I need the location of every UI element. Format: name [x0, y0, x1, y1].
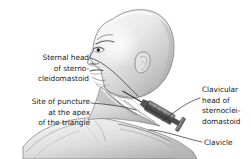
- head-group: [88, 10, 174, 99]
- anatomical-illustration-figure: Sternal head of sterno- cleidomastoid Si…: [0, 0, 251, 159]
- label-sternal-head: Sternal head of sterno- cleidomastoid: [0, 53, 89, 85]
- label-clavicle: Clavicle: [204, 138, 251, 149]
- label-clavicular-head: Clavicular head of sternoclei- domastoid: [202, 85, 251, 127]
- label-site-of-puncture: Site of puncture at the apex of the tria…: [0, 97, 90, 129]
